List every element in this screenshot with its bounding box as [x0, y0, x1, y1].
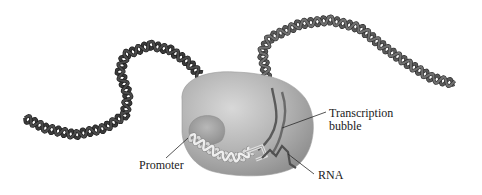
dna-double-helix-upstream [25, 41, 203, 138]
dna-double-helix-downstream [259, 16, 455, 92]
transcription-diagram [0, 0, 482, 195]
promoter-label: Promoter [139, 159, 184, 172]
rna-label: RNA [318, 169, 343, 182]
promoter-leader-line [166, 138, 188, 158]
transcription-bubble-label-line2: bubble [329, 120, 362, 133]
